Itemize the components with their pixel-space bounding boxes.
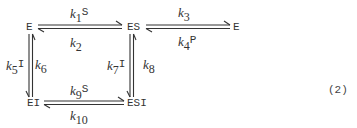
node-ESI: ESI — [127, 98, 147, 109]
label-k1: k1S — [70, 6, 88, 25]
label-k4: k4P — [178, 34, 196, 53]
label-k10: k10 — [70, 109, 88, 127]
arrowhead-k3 — [224, 21, 230, 25]
label-k9: k9S — [70, 83, 88, 102]
node-E-left: E — [26, 22, 33, 33]
label-k7: k7I — [107, 58, 125, 77]
label-k8: k8 — [143, 58, 155, 76]
node-EI: EI — [27, 98, 40, 109]
label-k5: k5I — [6, 58, 24, 77]
label-k2: k2 — [70, 36, 82, 54]
arrowhead-k9 — [118, 97, 124, 101]
label-k6: k6 — [35, 58, 47, 76]
node-E-right: E — [233, 22, 240, 33]
node-ES: ES — [127, 22, 140, 33]
label-k3: k3 — [178, 6, 190, 24]
arrowhead-k1 — [116, 21, 122, 25]
equation-number: (2) — [328, 84, 348, 96]
